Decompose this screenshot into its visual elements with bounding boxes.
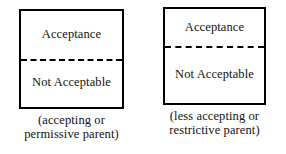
panel-caption-right: (less accepting or restrictive parent) [169,109,259,137]
acceptance-region-label-right: Acceptance [165,9,264,46]
acceptance-region-label-left: Acceptance [21,11,122,59]
panel-caption-left: (accepting or permissive parent) [24,113,118,141]
panel-less-accepting-restrictive-parent: Acceptance Not Acceptable (less acceptin… [143,7,286,137]
two-panel-acceptance-diagram: Acceptance Not Acceptable (accepting or … [0,0,286,154]
acceptance-box-right: Acceptance Not Acceptable [163,7,266,105]
not-acceptable-region-label-left: Not Acceptable [21,59,122,107]
acceptance-box-left: Acceptance Not Acceptable [19,9,124,109]
panel-accepting-permissive-parent: Acceptance Not Acceptable (accepting or … [0,9,143,141]
not-acceptable-region-label-right: Not Acceptable [165,46,264,103]
